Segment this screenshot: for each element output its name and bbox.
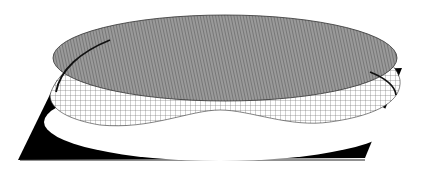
surface-plot <box>0 0 442 175</box>
mesh-surface-figure <box>0 0 442 175</box>
dome-top <box>53 15 397 101</box>
